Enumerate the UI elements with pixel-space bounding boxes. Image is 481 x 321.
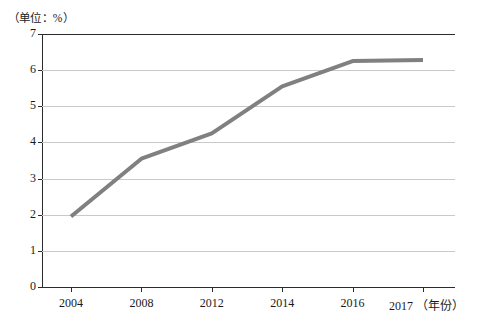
x-axis-label: 2017 （年份） (389, 296, 481, 314)
line-chart: （单位：%） 01234567 200420082012201420162017… (0, 0, 481, 321)
x-axis-line (42, 287, 455, 288)
x-axis-label: 2004 (36, 296, 106, 311)
y-axis-tick (38, 287, 42, 288)
x-axis-tick (212, 287, 213, 292)
x-axis-tick (71, 287, 72, 292)
x-axis-tick (141, 287, 142, 292)
y-axis-label: 0 (6, 279, 36, 294)
y-axis-label: 5 (6, 98, 36, 113)
x-axis-label: 2008 (106, 296, 176, 311)
x-axis-label: 2012 (177, 296, 247, 311)
y-axis-label: 6 (6, 62, 36, 77)
x-axis-tick (423, 287, 424, 292)
x-axis-label: 2016 (318, 296, 388, 311)
data-series-line (42, 34, 455, 287)
x-axis-label: 2014 (247, 296, 317, 311)
x-axis-tick (353, 287, 354, 292)
y-axis-label: 1 (6, 243, 36, 258)
y-axis-label: 4 (6, 134, 36, 149)
y-axis-label: 2 (6, 207, 36, 222)
plot-area (42, 34, 455, 287)
unit-label: （单位：%） (8, 9, 74, 25)
y-axis-label: 7 (6, 26, 36, 41)
y-axis-label: 3 (6, 171, 36, 186)
x-axis-tick (282, 287, 283, 292)
